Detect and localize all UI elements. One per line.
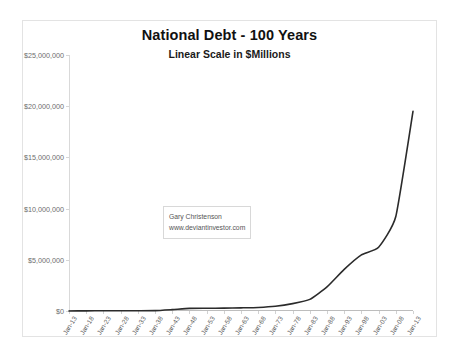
chart-title: National Debt - 100 Years [23,27,436,43]
y-axis-label: $0 [56,307,64,316]
x-axis-tick [241,311,242,314]
x-axis-label: Jan-83 [302,315,319,336]
y-axis-label: $10,000,000 [24,204,64,213]
x-axis-tick [361,311,362,314]
x-axis-label: Jan-13 [61,315,78,336]
x-axis-label: Jan-68 [250,315,267,336]
x-axis-label: Jan-13 [405,315,422,336]
x-axis-tick [344,311,345,314]
x-axis-tick [310,311,311,314]
x-axis-tick [189,311,190,314]
credit-website: www.deviantinvestor.com [169,222,245,233]
x-axis-tick [155,311,156,314]
plot-area: $0$5,000,000$10,000,000$15,000,000$20,00… [69,55,413,311]
y-axis-label: $25,000,000 [24,51,64,60]
x-axis-tick [413,311,414,314]
y-axis-label: $15,000,000 [24,153,64,162]
credit-author: Gary Christenson [169,211,245,222]
debt-line-series [69,55,413,311]
credit-watermark: Gary Christenson www.deviantinvestor.com [163,206,251,239]
x-axis-tick [258,311,259,314]
chart-container: National Debt - 100 Years Linear Scale i… [22,20,437,337]
x-axis-label: Jan-03 [371,315,388,336]
x-axis-label: Jan-23 [96,315,113,336]
x-axis-tick [379,311,380,314]
x-axis-label: Jan-58 [216,315,233,336]
x-axis-label: Jan-73 [268,315,285,336]
x-axis-tick [327,311,328,314]
x-axis-label: Jan-18 [78,315,95,336]
x-axis-tick [293,311,294,314]
y-axis-label: $5,000,000 [28,255,64,264]
x-axis-label: Jan-78 [285,315,302,336]
x-axis-tick [396,311,397,314]
x-axis-label: Jan-48 [182,315,199,336]
x-axis-tick [224,311,225,314]
x-axis-tick [275,311,276,314]
x-axis-label: Jan-98 [354,315,371,336]
y-axis-label: $20,000,000 [24,102,64,111]
x-axis-label: Jan-38 [147,315,164,336]
x-axis-label: Jan-53 [199,315,216,336]
x-axis-label: Jan-88 [319,315,336,336]
x-axis-label: Jan-43 [164,315,181,336]
x-axis-label: Jan-28 [113,315,130,336]
x-axis-label: Jan-63 [233,315,250,336]
x-axis-label: Jan-93 [336,315,353,336]
x-axis-tick [207,311,208,314]
x-axis-label: Jan-08 [388,315,405,336]
x-axis-tick [172,311,173,314]
x-axis-label: Jan-33 [130,315,147,336]
